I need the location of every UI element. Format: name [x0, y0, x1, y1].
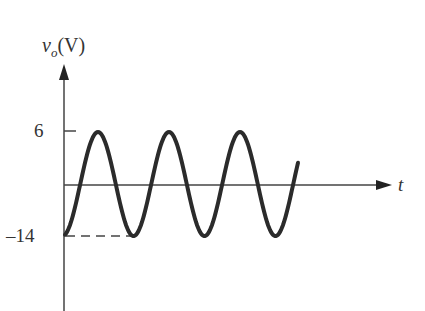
y-axis-label: vo(V)	[42, 34, 85, 61]
y-axis-unit: (V)	[57, 34, 85, 56]
x-axis-arrow-icon	[376, 180, 392, 190]
tick-label-6: 6	[34, 120, 44, 142]
tick-label-minus14: –14	[6, 225, 35, 247]
x-axis-label: t	[398, 174, 403, 196]
y-axis-var: v	[42, 34, 51, 56]
vo-waveform	[65, 132, 298, 236]
y-axis-arrow-icon	[59, 64, 69, 80]
